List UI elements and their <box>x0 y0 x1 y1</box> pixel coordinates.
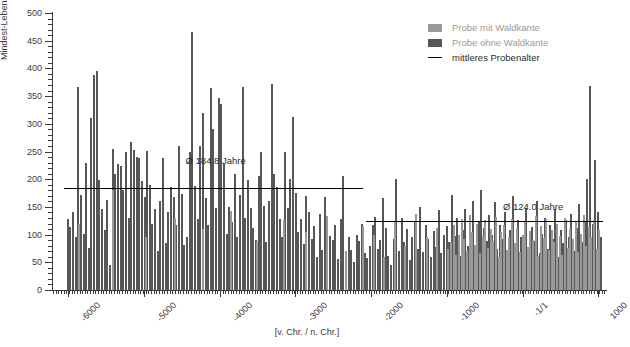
x-tick-minor <box>194 291 195 294</box>
x-tick-minor <box>172 291 173 294</box>
x-tick-minor <box>292 291 293 294</box>
bar <box>326 216 328 290</box>
y-tick-minor <box>48 85 52 86</box>
x-tick-minor <box>514 291 515 294</box>
y-tick-minor <box>48 273 52 274</box>
y-tick-minor <box>48 168 52 169</box>
x-tick-minor <box>167 291 168 294</box>
x-tick-minor <box>448 291 449 294</box>
x-tick-minor <box>509 291 510 294</box>
x-tick-minor <box>154 291 155 294</box>
x-tick-label: -3000 <box>306 300 329 323</box>
legend: Probe mit Waldkante Probe ohne Waldkante… <box>428 20 548 65</box>
bar <box>404 246 406 290</box>
x-tick-minor <box>440 291 441 294</box>
legend-item-probe-ohne-waldkante: Probe ohne Waldkante <box>428 35 548 50</box>
x-tick-minor <box>164 291 165 294</box>
x-tick-minor <box>517 291 518 294</box>
y-tick-minor <box>48 163 52 164</box>
x-tick-minor <box>284 291 285 294</box>
x-tick-minor <box>533 291 534 294</box>
x-tick-minor <box>236 291 237 294</box>
y-tick-label: 150 <box>27 203 42 212</box>
x-tick-minor <box>140 291 141 294</box>
x-tick-minor <box>146 291 147 294</box>
y-tick-minor <box>48 157 52 158</box>
x-tick-minor <box>159 291 160 294</box>
x-tick-label: -1000 <box>458 300 481 323</box>
y-tick-minor <box>48 57 52 58</box>
x-tick-minor <box>461 291 462 294</box>
x-tick-minor <box>151 291 152 294</box>
bar <box>230 211 232 290</box>
x-tick-minor <box>133 291 134 294</box>
x-tick-minor <box>472 291 473 294</box>
x-tick-minor <box>414 291 415 294</box>
x-tick-minor <box>490 291 491 294</box>
x-tick-minor <box>411 291 412 294</box>
legend-swatch-probe-ohne-waldkante <box>428 39 442 47</box>
bar <box>394 221 396 290</box>
x-tick-label: -5000 <box>155 300 178 323</box>
x-tick-minor <box>363 291 364 294</box>
y-tick-minor <box>48 185 52 186</box>
x-tick-minor <box>345 291 346 294</box>
y-tick-minor <box>48 63 52 64</box>
x-tick-minor <box>87 291 88 294</box>
figure-caption-clipped <box>0 340 614 347</box>
y-tick-label: 100 <box>27 231 42 240</box>
x-tick-minor <box>459 291 460 294</box>
y-tick-minor <box>48 91 52 92</box>
x-tick-major <box>371 291 372 297</box>
x-tick-minor <box>355 291 356 294</box>
x-tick-major <box>598 291 599 297</box>
x-tick-minor <box>559 291 560 294</box>
y-tick-label: 500 <box>27 9 42 18</box>
x-tick-minor <box>103 291 104 294</box>
x-tick-minor <box>225 291 226 294</box>
x-tick-major <box>144 291 145 297</box>
x-tick-minor <box>286 291 287 294</box>
x-tick-minor <box>183 291 184 294</box>
x-tick-minor <box>64 291 65 294</box>
x-tick-minor <box>530 291 531 294</box>
y-tick-label: 300 <box>27 120 42 129</box>
x-tick-minor <box>390 291 391 294</box>
y-tick-minor <box>48 284 52 285</box>
x-tick-minor <box>53 291 54 294</box>
mean-line <box>64 188 362 189</box>
x-tick-minor <box>178 291 179 294</box>
bar <box>345 251 347 290</box>
y-tick-label: 350 <box>27 92 42 101</box>
x-tick-minor <box>241 291 242 294</box>
bar <box>112 190 114 290</box>
y-tick-major <box>45 235 52 236</box>
x-tick-minor <box>536 291 537 294</box>
x-tick-minor <box>583 291 584 294</box>
y-tick-minor <box>48 240 52 241</box>
x-tick-minor <box>464 291 465 294</box>
x-axis-title: [v. Chr. / n. Chr.] <box>0 327 614 337</box>
x-tick-minor <box>512 291 513 294</box>
x-tick-minor <box>326 291 327 294</box>
bar <box>362 226 364 290</box>
x-tick-minor <box>419 291 420 294</box>
x-tick-minor <box>480 291 481 294</box>
x-tick-minor <box>188 291 189 294</box>
x-tick-minor <box>395 291 396 294</box>
x-tick-minor <box>498 291 499 294</box>
x-tick-minor <box>257 291 258 294</box>
x-tick-label: -1/1 <box>531 300 549 318</box>
x-tick-minor <box>379 291 380 294</box>
y-tick-minor <box>48 52 52 53</box>
x-tick-minor <box>93 291 94 294</box>
y-tick-minor <box>48 74 52 75</box>
bar <box>256 241 258 290</box>
x-tick-minor <box>270 291 271 294</box>
x-tick-minor <box>117 291 118 294</box>
legend-item-probe-mit-waldkante: Probe mit Waldkante <box>428 20 548 35</box>
y-tick-minor <box>48 118 52 119</box>
x-tick-minor <box>260 291 261 294</box>
x-tick-minor <box>61 291 62 294</box>
bar <box>415 214 417 290</box>
